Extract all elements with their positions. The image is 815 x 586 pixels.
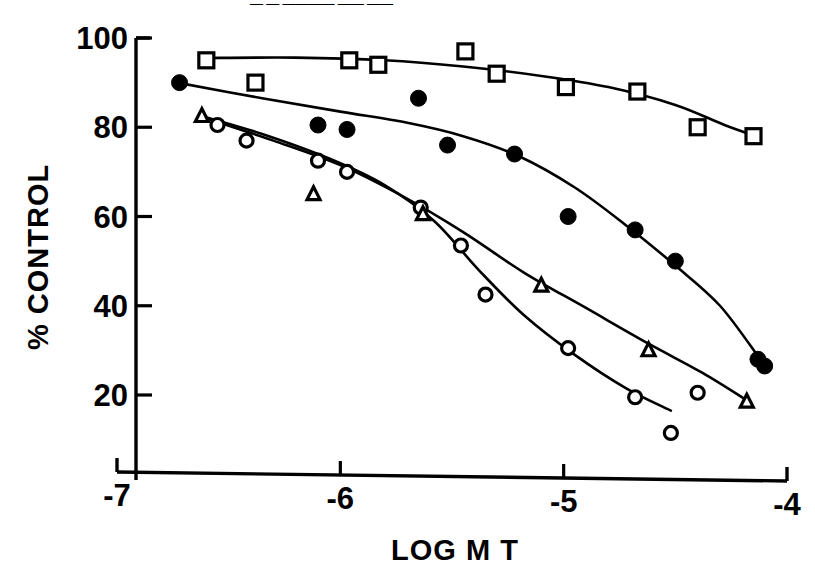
marker-open-square: [371, 57, 386, 72]
marker-open-circle: [341, 165, 354, 178]
marker-filled-circle: [627, 222, 643, 238]
x-tick-label: -7: [103, 478, 131, 513]
marker-filled-circle: [411, 90, 427, 106]
top-caption: — — ———— —— ——: [249, 0, 394, 10]
chart-page: — — ———— —— —— 20406080100 -7-6-5-4 % CO…: [0, 0, 815, 586]
marker-open-square: [342, 53, 357, 68]
curve-open-square-series: [202, 58, 756, 137]
curve-filled-circle-series: [177, 83, 760, 360]
marker-filled-circle: [507, 146, 523, 162]
x-axis-line: [117, 472, 787, 481]
series-open-circle-series: [211, 119, 704, 440]
y-tick-label: 20: [94, 378, 128, 413]
marker-open-square: [558, 80, 573, 95]
marker-open-circle: [629, 391, 642, 404]
x-tick-label: -4: [773, 487, 801, 522]
marker-open-circle: [211, 119, 224, 132]
marker-open-square: [458, 44, 473, 59]
marker-open-triangle: [307, 187, 320, 200]
marker-open-square: [630, 84, 645, 99]
marker-filled-circle: [560, 209, 576, 225]
marker-open-square: [690, 120, 705, 135]
marker-open-circle: [454, 239, 467, 252]
marker-open-circle: [312, 154, 325, 167]
marker-open-square: [489, 66, 504, 81]
y-tick-label: 80: [94, 110, 128, 145]
marker-open-circle: [479, 288, 492, 301]
series-open-square-series: [199, 44, 761, 144]
marker-open-circle: [691, 386, 704, 399]
y-axis-title: % CONTROL: [22, 164, 54, 350]
x-tick-label: -6: [327, 481, 355, 516]
plot-axes: [117, 38, 787, 481]
y-axis-tick-labels: 20406080100: [76, 21, 128, 413]
marker-filled-circle: [310, 117, 326, 133]
marker-filled-circle: [339, 121, 355, 137]
y-axis-ticks: [136, 38, 152, 395]
data-markers: [172, 44, 773, 440]
y-tick-label: 100: [76, 21, 128, 56]
marker-open-circle: [562, 342, 575, 355]
marker-open-square: [199, 53, 214, 68]
y-tick-label: 60: [94, 200, 128, 235]
marker-filled-circle: [172, 75, 188, 91]
dose-response-chart: — — ———— —— —— 20406080100 -7-6-5-4 % CO…: [0, 0, 815, 586]
series-filled-circle-series: [172, 75, 773, 374]
y-tick-label: 40: [94, 289, 128, 324]
x-axis-title: LOG M T: [391, 534, 519, 566]
marker-open-circle: [240, 134, 253, 147]
marker-open-square: [746, 129, 761, 144]
fit-curves: [177, 58, 760, 411]
marker-open-triangle: [195, 109, 208, 122]
marker-open-circle: [664, 426, 677, 439]
marker-filled-circle: [757, 358, 773, 374]
curve-open-circle-series: [202, 116, 671, 411]
marker-filled-circle: [440, 137, 456, 153]
x-tick-label: -5: [550, 484, 578, 519]
marker-filled-circle: [667, 253, 683, 269]
marker-open-square: [248, 75, 263, 90]
x-axis-tick-labels: -7-6-5-4: [103, 478, 801, 522]
